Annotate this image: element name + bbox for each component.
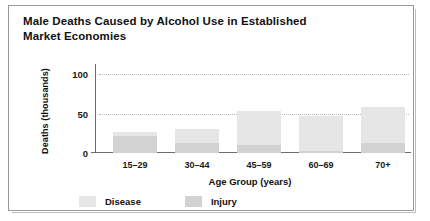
bar-segment-injury — [237, 145, 281, 153]
y-tick-label-100: 100 — [72, 69, 88, 80]
x-tick-label: 15–29 — [122, 160, 147, 170]
bar-group: 60–69 — [299, 116, 343, 153]
chart-legend: DiseaseInjury — [79, 196, 237, 207]
figure-panel: Male Deaths Caused by Alcohol Use in Est… — [8, 5, 414, 211]
x-tick-label: 60–69 — [308, 160, 333, 170]
legend-label: Disease — [105, 196, 141, 207]
bar-segment-injury — [175, 143, 219, 153]
x-tick-label: 70+ — [375, 160, 390, 170]
chart-title-line-1: Male Deaths Caused by Alcohol Use in Est… — [23, 14, 393, 29]
legend-item: Injury — [185, 196, 237, 207]
bar-segment-injury — [361, 143, 405, 153]
chart-title: Male Deaths Caused by Alcohol Use in Est… — [23, 14, 393, 44]
legend-item: Disease — [79, 196, 141, 207]
bar-segment-disease — [175, 129, 219, 142]
y-axis-title-text: Deaths (thousands) — [40, 68, 50, 154]
x-tick-label: 30–44 — [184, 160, 209, 170]
bar-group: 45–59 — [237, 111, 281, 153]
bar-segment-injury — [299, 151, 343, 153]
legend-swatch-disease — [79, 196, 96, 207]
legend-label: Injury — [211, 196, 237, 207]
y-tick-label-50: 50 — [77, 108, 88, 119]
x-axis-title: Age Group (years) — [95, 176, 405, 187]
x-tick-label: 45–59 — [246, 160, 271, 170]
chart-title-line-2: Market Economies — [23, 29, 393, 44]
bar-segment-disease — [361, 107, 405, 142]
plot-area: 050100 15–2930–4445–5960–6970+ — [95, 68, 405, 153]
bar-series-container: 15–2930–4445–5960–6970+ — [95, 68, 405, 153]
y-axis-title: Deaths (thousands) — [39, 68, 51, 153]
bar-segment-disease — [237, 111, 281, 145]
bar-group: 30–44 — [175, 129, 219, 153]
bar-group: 15–29 — [113, 132, 157, 153]
bar-group: 70+ — [361, 107, 405, 153]
bar-segment-disease — [299, 116, 343, 151]
legend-swatch-injury — [185, 196, 202, 207]
y-tick-label-0: 0 — [83, 148, 88, 159]
bar-segment-injury — [113, 136, 157, 153]
